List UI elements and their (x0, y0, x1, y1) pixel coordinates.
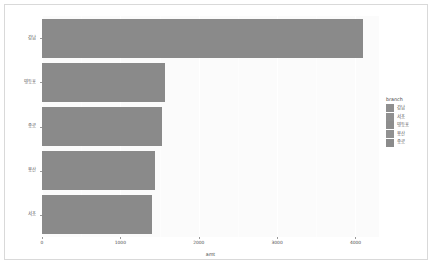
plot-panel (42, 16, 379, 237)
legend-item: 서초 (386, 113, 426, 122)
y-tick-mark (40, 215, 42, 216)
legend-label: 강남 (397, 106, 405, 110)
y-tick-label: 강남 (28, 36, 36, 40)
y-tick-label: 용산 (28, 168, 36, 172)
legend-label: 용산 (397, 132, 405, 136)
legend-swatch (386, 139, 394, 147)
legend-label: 영등포 (397, 123, 409, 127)
x-tick-mark (355, 237, 356, 239)
x-tick-label: 4000 (350, 241, 361, 245)
x-axis-title: amt (42, 252, 379, 257)
legend-item: 영등포 (386, 121, 426, 130)
chart-figure: reorder(branch, -amt) amt branch 강남서초영등포… (4, 4, 428, 260)
bar (42, 151, 155, 190)
legend-item: 강남 (386, 104, 426, 113)
bar (42, 19, 363, 58)
y-tick-mark (40, 38, 42, 39)
legend-item: 용산 (386, 130, 426, 139)
bar (42, 107, 162, 146)
y-axis-title: reorder(branch, -amt) (9, 0, 19, 5)
x-tick-mark (42, 237, 43, 239)
y-tick-label: 서초 (28, 212, 36, 216)
x-tick-label: 3000 (272, 241, 283, 245)
legend-swatch (386, 113, 394, 121)
y-tick-mark (40, 127, 42, 128)
legend-swatch (386, 104, 394, 112)
legend-items: 강남서초영등포용산종로 (386, 104, 426, 147)
legend-title: branch (386, 97, 426, 102)
x-tick-label: 1000 (115, 241, 126, 245)
legend: branch 강남서초영등포용산종로 (386, 97, 426, 147)
x-tick-mark (199, 237, 200, 239)
legend-item: 종로 (386, 138, 426, 147)
x-tick-mark (120, 237, 121, 239)
x-tick-label: 2000 (193, 241, 204, 245)
legend-label: 서초 (397, 115, 405, 119)
y-tick-mark (40, 82, 42, 83)
y-tick-label: 종로 (28, 124, 36, 128)
x-tick-label: 0 (41, 241, 44, 245)
legend-swatch (386, 130, 394, 138)
y-tick-mark (40, 171, 42, 172)
legend-swatch (386, 121, 394, 129)
legend-label: 종로 (397, 140, 405, 144)
y-tick-label: 영등포 (24, 80, 36, 84)
bar (42, 195, 152, 234)
x-tick-mark (277, 237, 278, 239)
bar (42, 63, 165, 102)
